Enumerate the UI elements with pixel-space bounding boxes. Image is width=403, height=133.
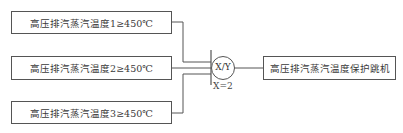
voting-gate-param: X=2 (213, 81, 233, 91)
input-label-2: 高压排汽蒸汽温度2≥450℃ (30, 61, 153, 75)
output-label: 高压排汽蒸汽温度保护跳机 (270, 61, 390, 75)
input-box-1: 高压排汽蒸汽温度1≥450℃ (11, 11, 172, 34)
input-label-1: 高压排汽蒸汽温度1≥450℃ (30, 16, 153, 30)
input-box-2: 高压排汽蒸汽温度2≥450℃ (11, 56, 172, 80)
input-label-3: 高压排汽蒸汽温度3≥450℃ (30, 106, 153, 120)
input-box-3: 高压排汽蒸汽温度3≥450℃ (11, 101, 172, 124)
output-box: 高压排汽蒸汽温度保护跳机 (263, 56, 396, 80)
voting-gate-label: X/Y (213, 62, 233, 72)
